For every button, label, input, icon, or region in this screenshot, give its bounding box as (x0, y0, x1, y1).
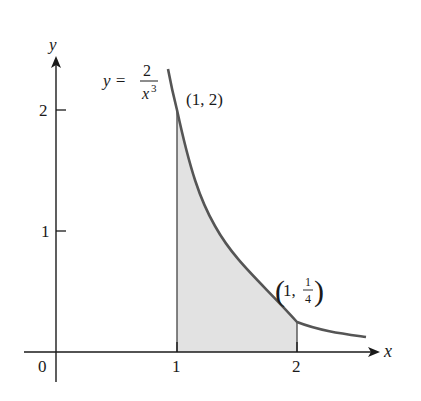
point-label-b-num: 1 (305, 275, 311, 289)
equation-exponent: 3 (151, 82, 157, 94)
x-tick-label-1: 1 (172, 357, 181, 376)
chart: y x 0 1 2 2 1 y = 2 x 3 (1, 2) ( 1, 1 4 … (0, 0, 421, 401)
x-axis-label: x (383, 341, 392, 361)
y-tick-label-2: 2 (39, 101, 48, 120)
y-tick-label-1: 1 (41, 222, 50, 241)
shaded-area (177, 110, 297, 352)
point-label-b-text: 1, (283, 281, 296, 300)
origin-label: 0 (38, 357, 47, 376)
y-axis-label: y (47, 35, 57, 54)
equation-denominator: x (141, 85, 149, 102)
equation-lhs: y = (101, 71, 126, 90)
point-label-b-paren-close: ) (314, 274, 324, 308)
point-label-a: (1, 2) (186, 90, 223, 109)
equation-numerator: 2 (143, 62, 151, 79)
x-tick-label-2: 2 (292, 357, 301, 376)
point-label-b-den: 4 (305, 292, 311, 306)
